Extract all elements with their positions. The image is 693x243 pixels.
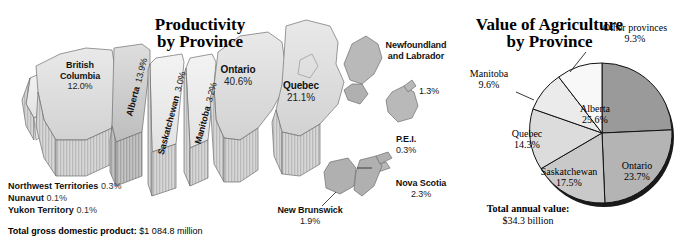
map-title: Productivity by Province xyxy=(125,16,275,50)
pie-label-pct: 17.5% xyxy=(520,177,618,188)
map-label-pei: P.E.I. 0.3% xyxy=(386,134,426,155)
pie-label-other-provinces: Other provinces 9.3% xyxy=(580,22,690,44)
map-label-ontario: Ontario 40.6% xyxy=(208,64,268,87)
pie-label-pct: 14.3% xyxy=(496,139,558,150)
label-pct: 12.0% xyxy=(42,81,118,92)
footnote-row: Northwest Territories 0.3% xyxy=(8,180,202,192)
pie-label-name: Quebec xyxy=(512,128,543,139)
pie-total-label: Total annual value: xyxy=(463,203,593,215)
territory-footnotes: Northwest Territories 0.3% Nunavut 0.1% … xyxy=(8,180,202,237)
map-label-new-brunswick: New Brunswick 1.9% xyxy=(268,205,352,226)
map-label-newfoundland-and-labrador: Newfoundland and Labrador xyxy=(374,40,458,61)
pie-label-name: Saskatchewan xyxy=(541,166,598,177)
pie-label-quebec: Quebec 14.3% xyxy=(496,128,558,150)
footnote-row: Nunavut 0.1% xyxy=(8,192,202,204)
map-label-british-columbia: British Columbia 12.0% xyxy=(42,60,118,92)
map-label-quebec: Quebec 21.1% xyxy=(272,80,330,103)
pie-label-name: Manitoba xyxy=(470,68,508,79)
pie-label-manitoba: Manitoba 9.6% xyxy=(448,68,530,90)
map-label-newfoundland-pct: 1.3% xyxy=(412,86,446,97)
label-name: Quebec xyxy=(283,80,319,91)
label-name-line1: British xyxy=(66,60,94,70)
footnote-name: Nunavut xyxy=(8,193,44,203)
map-total-value: $1 084.8 million xyxy=(139,226,202,236)
footnote-pct: 0.3% xyxy=(101,181,122,191)
agriculture-pie-panel: Value of Agriculture by Province xyxy=(460,0,693,243)
map-title-line2: by Province xyxy=(157,32,243,51)
label-pct: 2.3% xyxy=(386,189,456,200)
label-name: New Brunswick xyxy=(277,205,342,215)
footnote-name: Northwest Territories xyxy=(8,181,98,191)
productivity-map-panel: Productivity by Province British Columbi… xyxy=(0,0,460,243)
label-name: Ontario xyxy=(221,64,256,75)
label-pct: 1.3% xyxy=(419,86,439,96)
pie-total: Total annual value: $34.3 billion xyxy=(463,203,593,227)
footnote-pct: 0.1% xyxy=(76,205,97,215)
label-pct: 21.1% xyxy=(272,92,330,104)
pie-label-alberta: Alberta 25.6% xyxy=(560,103,630,125)
map-total: Total gross domestic product: $1 084.8 m… xyxy=(8,225,202,237)
pie-label-pct: 9.3% xyxy=(580,33,690,44)
label-pct: 1.9% xyxy=(268,216,352,227)
label-name: P.E.I. xyxy=(396,134,416,144)
label-pct: 0.3% xyxy=(386,145,426,156)
label-name-line2: Columbia xyxy=(60,71,100,81)
pie-total-value: $34.3 billion xyxy=(463,215,593,227)
leader-line-manitoba xyxy=(516,92,534,100)
footnote-name: Yukon Territory xyxy=(8,205,74,215)
pie-label-pct: 9.6% xyxy=(448,79,530,90)
label-name-line1: Newfoundland xyxy=(386,40,447,50)
pie-label-saskatchewan: Saskatchewan 17.5% xyxy=(520,166,618,188)
pie-label-name: Alberta xyxy=(580,103,610,114)
map-label-nova-scotia: Nova Scotia 2.3% xyxy=(386,178,456,199)
label-pct: 40.6% xyxy=(208,76,268,88)
pie-label-name: Other provinces xyxy=(603,22,667,33)
pie-label-pct: 25.6% xyxy=(560,114,630,125)
footnote-pct: 0.1% xyxy=(47,193,68,203)
label-name: Nova Scotia xyxy=(396,178,446,188)
pie-label-name: Ontario xyxy=(622,160,653,171)
footnote-row: Yukon Territory 0.1% xyxy=(8,204,202,216)
label-name-line2: and Labrador xyxy=(388,51,444,61)
map-total-label: Total gross domestic product: xyxy=(8,226,137,236)
